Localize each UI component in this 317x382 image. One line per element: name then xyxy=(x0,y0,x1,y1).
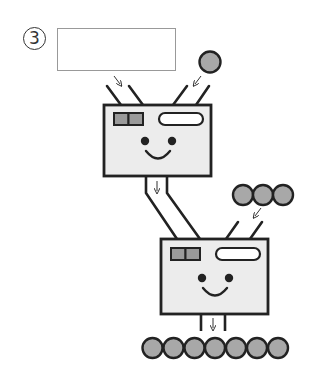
indicator-light xyxy=(186,248,201,260)
machine-1-input-chutes xyxy=(107,86,209,105)
indicator-light xyxy=(114,113,129,125)
machine-1 xyxy=(104,105,211,176)
input-slot xyxy=(159,113,203,125)
input-ball xyxy=(200,52,221,73)
eye xyxy=(198,274,206,282)
eye xyxy=(225,274,233,282)
arrow-icon xyxy=(195,76,201,84)
input-balls-three xyxy=(233,185,293,205)
indicator-light xyxy=(129,113,144,125)
eye xyxy=(141,137,149,145)
eye xyxy=(168,137,176,145)
machine-2 xyxy=(161,239,268,314)
machine-2-input-chutes xyxy=(226,222,262,239)
machine-diagram xyxy=(0,0,317,382)
arrow-icon xyxy=(114,76,120,84)
indicator-light xyxy=(171,248,186,260)
connecting-pipe xyxy=(146,176,200,239)
input-slot xyxy=(216,248,260,260)
output-balls-seven xyxy=(143,338,289,358)
arrow-icon xyxy=(255,208,261,216)
